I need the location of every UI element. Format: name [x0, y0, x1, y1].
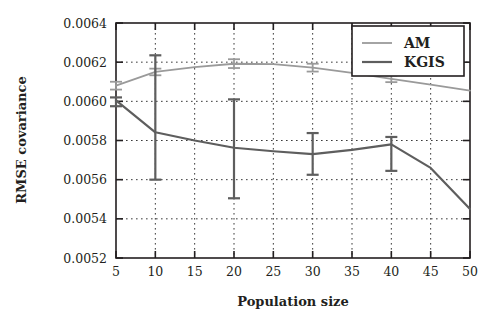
- x-tick-label: 20: [226, 264, 242, 279]
- y-tick-label: 0.0062: [63, 55, 107, 70]
- x-tick-label: 35: [344, 264, 360, 279]
- x-tick-label: 50: [462, 264, 478, 279]
- y-tick-label: 0.0060: [63, 94, 107, 109]
- x-axis-title: Population size: [237, 294, 349, 309]
- x-tick-label: 45: [423, 264, 439, 279]
- y-tick-label: 0.0058: [63, 133, 107, 148]
- y-tick-label: 0.0054: [63, 211, 107, 226]
- x-tick-label: 10: [147, 264, 163, 279]
- legend-label-kgis: KGIS: [404, 54, 445, 70]
- figure-container: 0.00520.00540.00560.00580.00600.00620.00…: [0, 0, 498, 323]
- rmse-covariance-line-chart: 0.00520.00540.00560.00580.00600.00620.00…: [0, 0, 498, 323]
- y-tick-label: 0.0064: [63, 16, 107, 31]
- x-tick-label: 25: [265, 264, 281, 279]
- legend-label-am: AM: [403, 35, 430, 51]
- x-tick-label: 15: [187, 264, 203, 279]
- x-tick-label: 30: [305, 264, 321, 279]
- legend: AM KGIS: [352, 26, 464, 76]
- y-axis-title: RMSE covariance: [14, 76, 29, 203]
- y-tick-label: 0.0052: [63, 251, 107, 266]
- y-tick-label: 0.0056: [63, 172, 107, 187]
- x-tick-label: 5: [112, 264, 120, 279]
- x-tick-label: 40: [383, 264, 399, 279]
